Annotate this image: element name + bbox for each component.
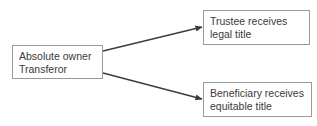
- node-label-line: Beneficiary receives: [210, 87, 305, 100]
- arrow-to-beneficiary: [103, 73, 202, 99]
- node-label-line: legal title: [210, 28, 303, 41]
- node-label-line: Transferor: [19, 63, 96, 76]
- node-label-line: Trustee receives: [210, 15, 303, 28]
- arrow-to-trustee: [103, 27, 202, 51]
- node-beneficiary-equitable-title: Beneficiary receives equitable title: [203, 82, 312, 117]
- node-trustee-legal-title: Trustee receives legal title: [203, 10, 310, 45]
- node-label-line: Absolute owner: [19, 50, 96, 63]
- node-absolute-owner-transferor: Absolute owner Transferor: [12, 45, 103, 79]
- node-label-line: equitable title: [210, 100, 305, 113]
